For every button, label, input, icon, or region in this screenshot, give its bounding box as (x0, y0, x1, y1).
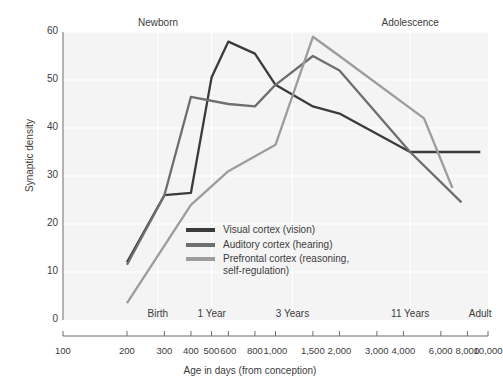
x-tick-label: 500 (204, 345, 220, 356)
x-tick-label: 2,000 (327, 345, 351, 356)
legend-label-prefrontal-line1: Prefrontal cortex (reasoning, (223, 253, 349, 264)
y-tick-label: 0 (32, 313, 58, 324)
x-tick-label: 200 (119, 345, 135, 356)
stage-label-top: Newborn (138, 17, 178, 28)
legend-item-visual: Visual cortex (vision) (186, 224, 349, 236)
axis-layer (63, 32, 488, 336)
x-tick-label: 3,000 (365, 345, 389, 356)
y-axis-title: Synaptic density (24, 86, 35, 226)
x-tick-label: 1,000 (264, 345, 288, 356)
legend-label-prefrontal: Prefrontal cortex (reasoning,self-regula… (223, 253, 349, 276)
legend-item-prefrontal: Prefrontal cortex (reasoning,self-regula… (186, 253, 349, 276)
x-tick-label: 600 (220, 345, 236, 356)
chart-legend: Visual cortex (vision) Auditory cortex (… (186, 224, 349, 279)
x-tick-label: 400 (183, 345, 199, 356)
y-tick-label: 50 (32, 73, 58, 84)
legend-item-auditory: Auditory cortex (hearing) (186, 239, 349, 251)
x-tick-label: 6,000 (429, 345, 453, 356)
legend-label-visual: Visual cortex (vision) (223, 224, 315, 236)
y-tick-label: 20 (32, 217, 58, 228)
y-tick-label: 40 (32, 121, 58, 132)
stage-label-bottom: 11 Years (391, 308, 429, 319)
legend-swatch-auditory (186, 243, 215, 247)
stage-label-bottom: 3 Years (276, 308, 309, 319)
legend-swatch-prefrontal (186, 257, 215, 261)
legend-label-prefrontal-line2: self-regulation) (223, 265, 289, 276)
stage-label-top: Adolescence (382, 17, 439, 28)
stage-label-bottom: Birth (148, 308, 169, 319)
stage-label-bottom: Adult (469, 308, 492, 319)
x-tick-label: 300 (156, 345, 172, 356)
x-tick-label: 100 (55, 345, 71, 356)
legend-label-auditory: Auditory cortex (hearing) (223, 239, 333, 251)
x-tick-label: 10,000 (474, 345, 503, 356)
x-axis-title: Age in days (from conception) (0, 365, 500, 376)
x-tick-label: 4,000 (391, 345, 415, 356)
y-tick-label: 10 (32, 265, 58, 276)
y-tick-label: 60 (32, 25, 58, 36)
stage-label-bottom: 1 Year (198, 308, 226, 319)
x-tick-label: 1,500 (301, 345, 325, 356)
legend-swatch-visual (186, 228, 215, 232)
y-tick-label: 30 (32, 169, 58, 180)
x-tick-label: 800 (247, 345, 263, 356)
